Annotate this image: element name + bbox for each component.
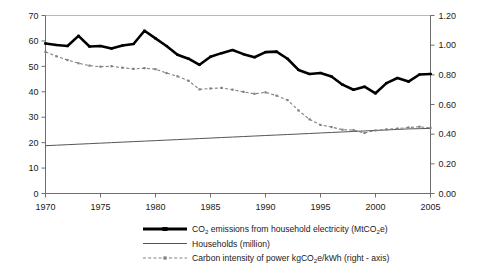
right-axis-tick-label: 1.20 — [439, 11, 457, 21]
line-chart: 010203040506070 0.000.200.400.600.801.00… — [0, 0, 486, 276]
left-axis-tick-label: 0 — [33, 189, 38, 199]
right-axis-tick-label: 0.20 — [439, 159, 457, 169]
left-axis-tick-label: 10 — [28, 163, 38, 173]
left-axis-tick-label: 40 — [28, 87, 38, 97]
x-axis-tick-label: 2005 — [420, 202, 440, 212]
right-axis-tick-label: 0.60 — [439, 100, 457, 110]
x-axis-tick-label: 1975 — [90, 202, 110, 212]
left-axis-tick-label: 60 — [28, 36, 38, 46]
x-axis-tick-label: 1985 — [200, 202, 220, 212]
x-axis-tick-label: 2000 — [365, 202, 385, 212]
legend-label: Carbon intensity of power kgCO2e/kWh (ri… — [192, 253, 390, 264]
left-axis-tick-label: 20 — [28, 138, 38, 148]
x-axis-tick-label: 1990 — [255, 202, 275, 212]
right-axis-tick-label: 0.40 — [439, 129, 457, 139]
right-axis-tick-label: 1.00 — [439, 40, 457, 50]
right-axis-tick-label: 0.80 — [439, 70, 457, 80]
x-axis-tick-label: 1995 — [310, 202, 330, 212]
legend-label: CO2 emissions from household electricity… — [192, 224, 388, 235]
left-axis-tick-label: 50 — [28, 62, 38, 72]
thick-line-marker-icon — [143, 227, 187, 231]
left-axis-tick-label: 70 — [28, 11, 38, 21]
right-axis-tick-label: 0.00 — [439, 189, 457, 199]
x-axis-tick-label: 1980 — [145, 202, 165, 212]
x-axis-tick-label: 1970 — [35, 202, 55, 212]
chart-container: 010203040506070 0.000.200.400.600.801.00… — [0, 0, 486, 276]
legend-label: Households (million) — [192, 239, 270, 249]
left-axis-tick-label: 30 — [28, 112, 38, 122]
